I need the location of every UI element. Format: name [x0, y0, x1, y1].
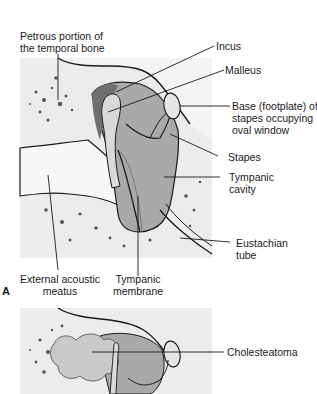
label-stapes: Stapes	[228, 151, 261, 163]
label-line: stapes occupying	[232, 112, 317, 124]
label-line: the temporal bone	[20, 42, 105, 54]
label-line: Base (footplate) of	[232, 100, 317, 112]
ear-anatomy-illustration	[0, 0, 317, 394]
panel-b-drawing	[20, 308, 224, 394]
panel-letter-a: A	[2, 285, 10, 297]
label-incus: Incus	[216, 40, 241, 52]
label-line: membrane	[110, 285, 166, 297]
label-line: oval window	[232, 124, 317, 136]
label-external-acoustic-meatus: External acoustic meatus	[16, 273, 104, 297]
label-malleus: Malleus	[225, 64, 261, 76]
label-line: Eustachian	[236, 237, 288, 249]
label-tympanic-cavity: Tympanic cavity	[229, 171, 274, 195]
label-line: meatus	[16, 285, 104, 297]
label-cholesteatoma: Cholesteatoma	[227, 346, 298, 358]
label-line: cavity	[229, 183, 274, 195]
panel-a-drawing	[20, 58, 212, 258]
label-line: Tympanic	[110, 273, 166, 285]
label-line: External acoustic	[16, 273, 104, 285]
label-petrous-portion: Petrous portion of the temporal bone	[20, 30, 105, 54]
label-line: Tympanic	[229, 171, 274, 183]
label-line: Petrous portion of	[20, 30, 105, 42]
label-line: tube	[236, 249, 288, 261]
label-tympanic-membrane: Tympanic membrane	[110, 273, 166, 297]
label-eustachian-tube: Eustachian tube	[236, 237, 288, 261]
label-base-footplate-stapes: Base (footplate) of stapes occupying ova…	[232, 100, 317, 136]
